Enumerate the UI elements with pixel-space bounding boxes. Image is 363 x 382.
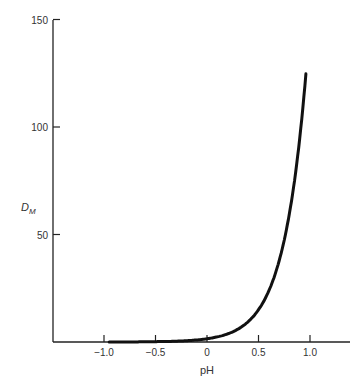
x-tick-label: 0.5 — [252, 347, 266, 358]
chart: 50100150 −1.0−0.500.51.0 DM pH — [0, 0, 363, 382]
y-tick-label: 150 — [31, 15, 48, 26]
y-axis-label: DM — [21, 201, 36, 216]
x-tick-label: −1.0 — [94, 347, 114, 358]
data-curve — [109, 74, 306, 342]
x-tick-label: 1.0 — [303, 347, 317, 358]
x-tick-label: −0.5 — [146, 347, 166, 358]
y-tick-label: 100 — [31, 122, 48, 133]
x-tick-label: 0 — [204, 347, 210, 358]
y-tick-label: 50 — [37, 230, 49, 241]
x-axis-label: pH — [200, 364, 214, 376]
